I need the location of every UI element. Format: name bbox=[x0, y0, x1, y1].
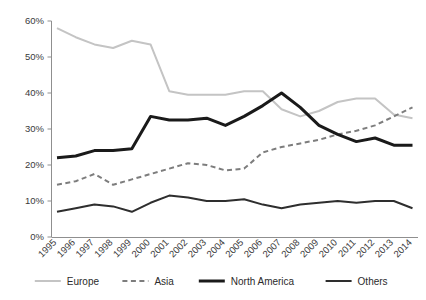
x-tick-label: 2013 bbox=[372, 237, 395, 260]
y-tick-label: 40% bbox=[25, 87, 45, 98]
x-tick-label: 1999 bbox=[111, 237, 134, 260]
x-tick-label: 2011 bbox=[336, 237, 358, 259]
x-tick-label: 2009 bbox=[298, 237, 321, 260]
y-tick-marks bbox=[48, 21, 52, 237]
x-tick-label: 2014 bbox=[391, 237, 414, 260]
y-tick-label: 50% bbox=[25, 51, 45, 62]
legend-label-asia: Asia bbox=[154, 276, 174, 287]
x-tick-label: 2000 bbox=[129, 237, 152, 260]
y-tick-labels: 0%10%20%30%40%50%60% bbox=[25, 15, 45, 242]
y-axis-group: 0%10%20%30%40%50%60% bbox=[25, 15, 52, 242]
x-tick-label: 2004 bbox=[204, 237, 227, 260]
y-tick-label: 30% bbox=[25, 123, 45, 134]
x-tick-label: 2010 bbox=[316, 237, 339, 260]
legend-label-europe: Europe bbox=[67, 276, 100, 287]
line-chart: 0%10%20%30%40%50%60% 1995199619971998199… bbox=[0, 0, 426, 300]
series-line-others bbox=[57, 196, 413, 212]
x-tick-label: 2007 bbox=[260, 237, 283, 260]
x-tick-label: 1996 bbox=[54, 237, 77, 260]
x-tick-label: 2012 bbox=[354, 237, 377, 260]
y-tick-label: 0% bbox=[30, 231, 44, 242]
x-tick-label: 2005 bbox=[223, 237, 246, 260]
legend-label-north-america: North America bbox=[231, 276, 295, 287]
series-line-europe bbox=[57, 28, 413, 118]
legend-label-others: Others bbox=[358, 276, 388, 287]
chart-legend: EuropeAsiaNorth AmericaOthers bbox=[35, 276, 388, 287]
x-tick-label: 2006 bbox=[242, 237, 265, 260]
x-tick-label: 2008 bbox=[279, 237, 302, 260]
series-line-north-america bbox=[57, 93, 413, 158]
x-tick-label: 2001 bbox=[148, 237, 171, 260]
x-tick-label: 2003 bbox=[185, 237, 208, 260]
x-axis-group: 1995199619971998199920002001200220032004… bbox=[36, 237, 418, 260]
chart-container: 0%10%20%30%40%50%60% 1995199619971998199… bbox=[0, 0, 426, 300]
series-group bbox=[57, 28, 413, 212]
series-line-asia bbox=[57, 107, 413, 184]
x-tick-label: 1998 bbox=[92, 237, 115, 260]
x-tick-label: 2002 bbox=[167, 237, 190, 260]
x-tick-labels: 1995199619971998199920002001200220032004… bbox=[36, 237, 414, 260]
y-tick-label: 60% bbox=[25, 15, 45, 26]
x-tick-label: 1997 bbox=[73, 237, 96, 260]
y-tick-label: 20% bbox=[25, 159, 45, 170]
y-tick-label: 10% bbox=[25, 195, 45, 206]
